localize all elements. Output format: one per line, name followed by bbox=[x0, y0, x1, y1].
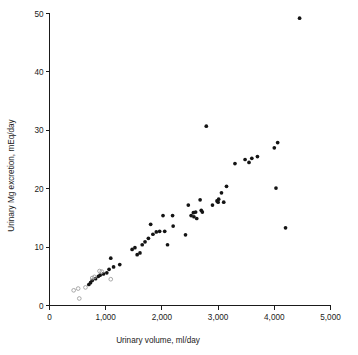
data-point-filled-29 bbox=[186, 203, 190, 207]
data-point-filled-34 bbox=[195, 217, 199, 221]
scatter-plot-canvas: 0102030405001,0002,0003,0004,0005,000 Ur… bbox=[0, 0, 358, 355]
data-point-filled-24 bbox=[163, 229, 167, 233]
x-tick-label-1000: 1,000 bbox=[95, 313, 116, 322]
data-point-open-0 bbox=[72, 288, 76, 292]
x-tick-label-0: 0 bbox=[47, 313, 52, 322]
data-point-open-2 bbox=[77, 297, 81, 301]
data-point-filled-44 bbox=[222, 200, 226, 204]
data-point-filled-43 bbox=[220, 191, 224, 195]
data-point-filled-50 bbox=[256, 155, 260, 159]
data-point-filled-27 bbox=[171, 224, 175, 228]
data-point-filled-38 bbox=[204, 124, 208, 128]
data-point-filled-45 bbox=[225, 185, 229, 189]
scatter-chart-figure: 0102030405001,0002,0003,0004,0005,000 Ur… bbox=[0, 0, 358, 355]
data-point-filled-48 bbox=[247, 161, 251, 165]
data-point-filled-16 bbox=[140, 243, 144, 247]
data-point-filled-46 bbox=[233, 162, 237, 166]
data-point-filled-37 bbox=[201, 210, 205, 214]
data-point-filled-15 bbox=[138, 251, 142, 255]
data-point-filled-13 bbox=[133, 246, 137, 250]
data-point-filled-49 bbox=[250, 156, 254, 160]
data-point-filled-11 bbox=[118, 263, 122, 267]
data-point-filled-26 bbox=[171, 214, 175, 218]
data-point-filled-39 bbox=[211, 203, 215, 207]
data-point-filled-9 bbox=[109, 256, 113, 260]
y-tick-label-0: 0 bbox=[39, 302, 44, 311]
x-tick-label-4000: 4,000 bbox=[264, 313, 285, 322]
data-point-open-3 bbox=[84, 286, 88, 290]
data-point-filled-53 bbox=[276, 141, 280, 145]
y-tick-label-50: 50 bbox=[34, 10, 44, 19]
data-point-filled-35 bbox=[198, 198, 202, 202]
data-point-filled-22 bbox=[158, 229, 162, 233]
y-tick-label-40: 40 bbox=[34, 68, 44, 77]
x-axis-title: Urinary volume, ml/day bbox=[116, 336, 201, 345]
x-tick-label-5000: 5,000 bbox=[320, 313, 341, 322]
y-axis-title: Urinary Mg excretion, mEq/day bbox=[7, 118, 16, 231]
data-point-filled-52 bbox=[274, 186, 278, 190]
data-point-filled-20 bbox=[151, 232, 155, 236]
axes-layer: 0102030405001,0002,0003,0004,0005,000 bbox=[34, 10, 341, 322]
data-point-open-8 bbox=[109, 277, 113, 281]
data-point-filled-54 bbox=[284, 226, 288, 230]
data-point-filled-51 bbox=[272, 146, 276, 150]
data-point-open-7 bbox=[100, 270, 104, 274]
axis-labels-layer: Urinary volume, ml/dayUrinary Mg excreti… bbox=[7, 118, 201, 344]
data-point-open-1 bbox=[76, 287, 80, 291]
data-point-filled-42 bbox=[217, 197, 221, 201]
data-point-filled-19 bbox=[149, 222, 153, 226]
data-point-filled-18 bbox=[147, 236, 151, 240]
data-point-filled-17 bbox=[143, 240, 147, 244]
data-point-filled-7 bbox=[105, 271, 109, 275]
data-points-layer bbox=[72, 16, 302, 300]
data-point-filled-23 bbox=[161, 214, 165, 218]
data-point-filled-21 bbox=[154, 230, 158, 234]
data-point-filled-55 bbox=[298, 16, 302, 20]
y-tick-label-20: 20 bbox=[34, 185, 44, 194]
data-point-filled-8 bbox=[107, 267, 111, 271]
data-point-filled-25 bbox=[166, 243, 170, 247]
data-point-filled-10 bbox=[112, 265, 116, 269]
data-point-filled-33 bbox=[194, 210, 198, 214]
x-tick-label-2000: 2,000 bbox=[152, 313, 173, 322]
x-tick-label-3000: 3,000 bbox=[208, 313, 229, 322]
y-tick-label-30: 30 bbox=[34, 126, 44, 135]
data-point-filled-47 bbox=[243, 158, 247, 162]
y-tick-label-10: 10 bbox=[34, 243, 44, 252]
data-point-filled-28 bbox=[184, 233, 188, 237]
